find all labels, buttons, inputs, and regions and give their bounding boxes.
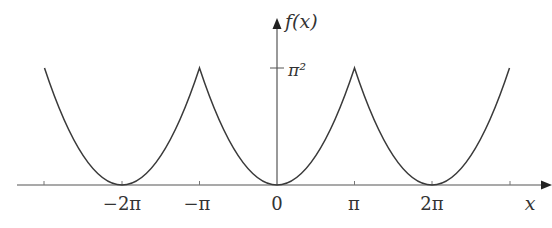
function-plot: f(x) π² −2π −π 0 π 2π x [0, 0, 552, 228]
y-axis-label: f(x) [283, 10, 318, 32]
tick-label-two-pi: 2π [420, 193, 443, 214]
tick-label-pi: π [348, 193, 360, 214]
x-axis-label: x [525, 192, 536, 214]
tick-label-neg-two-pi: −2π [103, 193, 142, 214]
y-axis-arrow-icon [273, 18, 282, 29]
x-axis-arrow-icon [541, 181, 552, 190]
tick-label-neg-pi: −π [184, 193, 211, 214]
tick-label-zero: 0 [271, 193, 282, 214]
pi-squared-label: π² [287, 60, 306, 80]
